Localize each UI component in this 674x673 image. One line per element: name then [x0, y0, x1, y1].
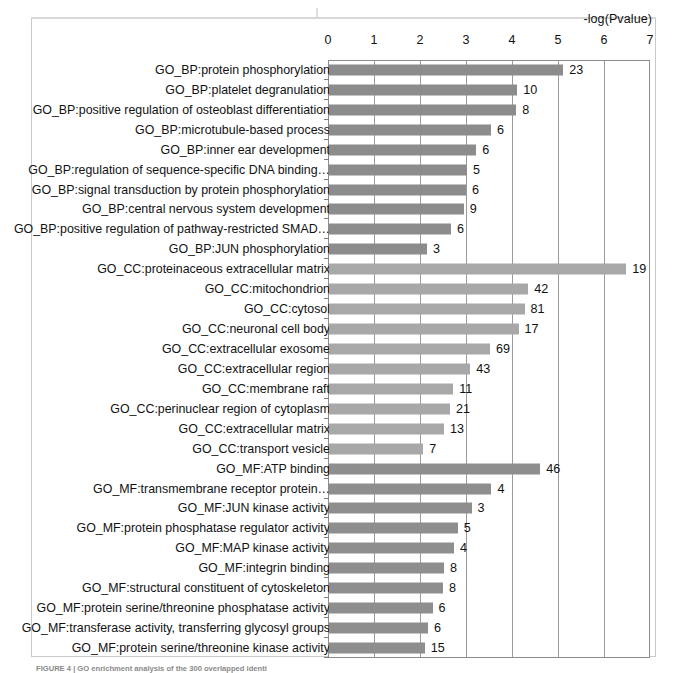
bar-row: GO_MF:protein phosphatase regulator acti…: [0, 518, 674, 538]
x-axis-title: -log(Pvalue): [540, 12, 652, 26]
bar: [329, 204, 464, 215]
bar-value-label: 3: [478, 501, 485, 515]
bar-value-label: 5: [464, 521, 471, 535]
bar-value-label: 9: [470, 202, 477, 216]
bar-value-label: 7: [429, 442, 436, 456]
category-label: GO_BP:regulation of sequence-specific DN…: [28, 163, 330, 176]
category-label: GO_CC:extracellular region: [178, 362, 330, 375]
bar-row: GO_CC:transport vesicle7: [0, 439, 674, 459]
bar-value-label: 4: [497, 482, 504, 496]
category-label: GO_CC:extracellular matrix: [179, 422, 330, 435]
bar-row: GO_MF:JUN kinase activity3: [0, 499, 674, 519]
bar: [329, 383, 453, 394]
bar-row: GO_BP:positive regulation of osteoblast …: [0, 100, 674, 120]
bar-value-label: 8: [449, 581, 456, 595]
bar: [329, 423, 444, 434]
bar: [329, 363, 470, 374]
category-label: GO_MF:transferase activity, transferring…: [22, 622, 330, 635]
category-label: GO_CC:membrane raft: [202, 382, 330, 395]
category-label: GO_CC:transport vesicle: [192, 442, 330, 455]
category-label: GO_BP:positive regulation of osteoblast …: [33, 103, 330, 116]
bar-row: GO_BP:JUN phosphorylation3: [0, 239, 674, 259]
x-axis-tick-labels: 01234567: [0, 33, 674, 51]
bar-value-label: 23: [569, 63, 583, 77]
category-label: GO_BP:protein phosphorylation: [155, 63, 330, 76]
bar: [329, 583, 443, 594]
figure-caption: FIGURE 4 | GO enrichment analysis of the…: [36, 664, 636, 673]
bar-rows: GO_BP:protein phosphorylation23GO_BP:pla…: [0, 60, 674, 658]
bar-row: GO_MF:MAP kinase activity4: [0, 538, 674, 558]
bar-row: GO_CC:cytosol81: [0, 299, 674, 319]
category-label: GO_MF:transmembrane receptor protein…: [93, 482, 330, 495]
bar: [329, 64, 563, 75]
bar-row: GO_MF:integrin binding8: [0, 558, 674, 578]
bar: [329, 304, 525, 315]
x-tick-4: 4: [497, 33, 527, 47]
bar: [329, 563, 444, 574]
category-label: GO_BP:signal transduction by protein pho…: [32, 183, 330, 196]
category-label: GO_CC:neuronal cell body: [182, 323, 330, 336]
bar: [329, 164, 467, 175]
x-tick-6: 6: [589, 33, 619, 47]
bar: [329, 483, 491, 494]
x-tick-7: 7: [635, 33, 665, 47]
bar: [329, 643, 425, 654]
bar-value-label: 21: [456, 402, 470, 416]
bar-row: GO_MF:transmembrane receptor protein…4: [0, 479, 674, 499]
bar: [329, 224, 451, 235]
bar-value-label: 4: [460, 541, 467, 555]
bar-row: GO_CC:extracellular exosome69: [0, 339, 674, 359]
x-tick-3: 3: [451, 33, 481, 47]
category-label: GO_BP:positive regulation of pathway-res…: [14, 223, 330, 236]
category-label: GO_BP:central nervous system development: [82, 203, 330, 216]
bar-value-label: 6: [439, 601, 446, 615]
x-tick-5: 5: [543, 33, 573, 47]
bar-row: GO_MF:ATP binding46: [0, 459, 674, 479]
bar: [329, 503, 472, 514]
bar-value-label: 5: [473, 163, 480, 177]
bar: [329, 184, 466, 195]
bar-value-label: 6: [482, 143, 489, 157]
x-tick-2: 2: [405, 33, 435, 47]
bar-row: GO_BP:platelet degranulation10: [0, 80, 674, 100]
category-label: GO_CC:cytosol: [244, 303, 330, 316]
bar-row: GO_CC:perinuclear region of cytoplasm21: [0, 399, 674, 419]
category-label: GO_MF:ATP binding: [216, 462, 330, 475]
bar-row: GO_CC:neuronal cell body17: [0, 319, 674, 339]
category-label: GO_CC:perinuclear region of cytoplasm: [110, 402, 330, 415]
bar-row: GO_MF:protein serine/threonine phosphata…: [0, 598, 674, 618]
bar-row: GO_BP:central nervous system development…: [0, 200, 674, 220]
category-label: GO_MF:protein serine/threonine phosphata…: [37, 602, 330, 615]
bar-value-label: 46: [546, 462, 560, 476]
bar: [329, 543, 454, 554]
bar-value-label: 19: [632, 262, 646, 276]
bar-value-label: 43: [476, 362, 490, 376]
bar: [329, 603, 433, 614]
bar: [329, 324, 519, 335]
x-tick-0: 0: [313, 33, 343, 47]
bar-value-label: 13: [450, 422, 464, 436]
bar-row: GO_CC:proteinaceous extracellular matrix…: [0, 259, 674, 279]
bar: [329, 523, 458, 534]
bar-row: GO_CC:mitochondrion42: [0, 279, 674, 299]
bar-value-label: 6: [434, 621, 441, 635]
bar-value-label: 15: [431, 641, 445, 655]
go-enrichment-bar-chart: -log(Pvalue) 01234567 GO_BP:protein phos…: [0, 0, 674, 673]
category-label: GO_MF:protein phosphatase regulator acti…: [77, 522, 330, 535]
bar-value-label: 6: [497, 123, 504, 137]
category-label: GO_MF:integrin binding: [198, 562, 330, 575]
bar-row: GO_BP:protein phosphorylation23: [0, 60, 674, 80]
bar-value-label: 11: [459, 382, 472, 396]
bar-value-label: 6: [472, 183, 479, 197]
bar-row: GO_CC:extracellular region43: [0, 359, 674, 379]
bar: [329, 344, 490, 355]
bar-row: GO_CC:extracellular matrix13: [0, 419, 674, 439]
bar: [329, 443, 423, 454]
bar: [329, 284, 528, 295]
category-label: GO_BP:platelet degranulation: [165, 83, 330, 96]
bar-value-label: 17: [525, 322, 539, 336]
x-tick-1: 1: [359, 33, 389, 47]
bar: [329, 124, 491, 135]
category-label: GO_MF:structural constituent of cytoskel…: [82, 582, 330, 595]
bar-row: GO_MF:protein serine/threonine kinase ac…: [0, 638, 674, 658]
